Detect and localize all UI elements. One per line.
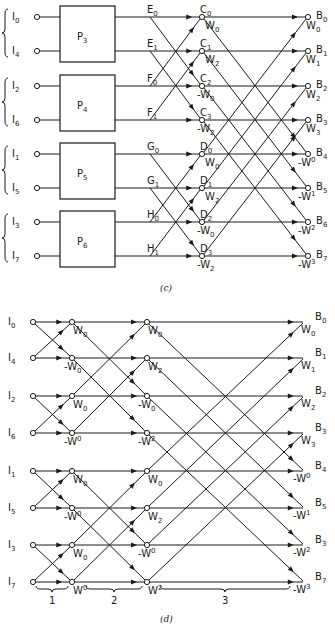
signal-edge bbox=[194, 19, 200, 27]
stage1-node bbox=[69, 579, 74, 584]
twiddle-weight: W0 bbox=[205, 20, 219, 34]
intermediate-label: G1 bbox=[147, 175, 159, 189]
input-label: I0 bbox=[8, 316, 15, 330]
figure-d-caption: (d) bbox=[160, 614, 173, 624]
input-node bbox=[30, 319, 35, 324]
intermediate-label: E0 bbox=[147, 4, 158, 18]
signal-edge bbox=[74, 324, 135, 384]
twiddle-weight: W3 bbox=[306, 123, 320, 137]
stage-node bbox=[199, 117, 204, 122]
output-label: B0 bbox=[316, 10, 327, 24]
stage2-node bbox=[144, 542, 149, 547]
output-label: B6 bbox=[316, 215, 328, 229]
signal-edge bbox=[296, 241, 306, 254]
twiddle-weight: -W0 bbox=[138, 547, 156, 559]
signal-edge bbox=[149, 398, 294, 535]
figure-c-caption: (c) bbox=[160, 283, 173, 293]
signal-edge bbox=[74, 334, 135, 394]
dft-block bbox=[60, 75, 115, 131]
input-label: I5 bbox=[8, 502, 15, 516]
stage2-node bbox=[144, 579, 149, 584]
twiddle-weight: W0 bbox=[148, 474, 162, 488]
intermediate-label: E1 bbox=[147, 38, 158, 52]
input-label: I1 bbox=[8, 465, 15, 479]
signal-edge bbox=[204, 135, 296, 254]
signal-edge bbox=[204, 122, 296, 241]
twiddle-weight: -W0 bbox=[64, 361, 82, 375]
signal-edge bbox=[35, 330, 64, 356]
signal-edge bbox=[204, 53, 296, 173]
signal-edge bbox=[296, 53, 306, 66]
signal-edge bbox=[74, 473, 135, 533]
stage-number: 3 bbox=[222, 595, 228, 606]
output-node bbox=[305, 48, 310, 53]
signal-edge bbox=[296, 173, 306, 186]
input-label: I3 bbox=[12, 216, 19, 230]
input-label: I3 bbox=[8, 539, 15, 553]
figure-d-butterfly-diagram: I0I4I2I6I1I5I3I7W0-W0W0-W0W0-W0W0W0W0W2-… bbox=[8, 311, 327, 606]
signal-edge bbox=[194, 190, 200, 198]
input-node bbox=[34, 83, 39, 88]
stage2-node bbox=[144, 430, 149, 435]
signal-edge bbox=[149, 435, 294, 572]
stage2-node bbox=[144, 505, 149, 510]
signal-edge bbox=[294, 535, 303, 544]
signal-edge bbox=[204, 101, 296, 220]
signal-edge bbox=[35, 479, 64, 506]
signal-edge bbox=[35, 404, 64, 431]
output-node bbox=[305, 117, 310, 122]
twiddle-weight: -W1 bbox=[293, 509, 311, 521]
signal-edge bbox=[135, 384, 145, 394]
output-label: B4 bbox=[315, 460, 327, 474]
input-label: I7 bbox=[12, 250, 19, 264]
signal-edge bbox=[35, 398, 64, 425]
intermediate-label: G0 bbox=[147, 141, 159, 155]
signal-edge bbox=[135, 510, 145, 520]
input-label: I7 bbox=[8, 576, 15, 590]
output-node bbox=[305, 151, 310, 156]
signal-edge bbox=[35, 473, 64, 500]
output-label: B0 bbox=[315, 311, 326, 325]
intermediate-label: H1 bbox=[147, 243, 159, 257]
intermediate-label: H0 bbox=[147, 209, 159, 223]
signal-edge bbox=[294, 572, 303, 581]
signal-edge bbox=[204, 88, 296, 207]
input-node bbox=[34, 117, 39, 122]
output-label: B4 bbox=[316, 147, 328, 161]
output-label: B5 bbox=[315, 497, 326, 511]
output-label: B2 bbox=[316, 79, 327, 93]
input-label: I4 bbox=[12, 45, 20, 59]
stage-brace bbox=[160, 586, 290, 592]
twiddle-weight: -W2 bbox=[298, 224, 316, 236]
signal-edge bbox=[150, 198, 194, 256]
signal-edge bbox=[64, 574, 70, 580]
intermediate-label: F0 bbox=[147, 73, 157, 87]
dft-block bbox=[60, 211, 115, 267]
stage1-node bbox=[69, 468, 74, 473]
stage-node bbox=[199, 83, 204, 88]
input-node bbox=[34, 185, 39, 190]
twiddle-weight: W3 bbox=[301, 435, 315, 449]
twiddle-weight: -W0 bbox=[298, 156, 316, 168]
signal-edge bbox=[135, 324, 145, 334]
output-label: B7 bbox=[316, 249, 327, 263]
signal-edge bbox=[135, 473, 145, 483]
twiddle-weight: -W0 bbox=[64, 435, 82, 447]
signal-edge bbox=[74, 520, 135, 580]
twiddle-weight: W0 bbox=[148, 325, 162, 339]
twiddle-weight: W0 bbox=[306, 20, 320, 34]
signal-edge bbox=[64, 473, 70, 479]
input-label: I0 bbox=[12, 11, 19, 25]
output-label: B1 bbox=[315, 347, 326, 361]
signal-edge bbox=[296, 207, 306, 220]
signal-edge bbox=[294, 461, 303, 470]
twiddle-weight: W2 bbox=[301, 398, 315, 412]
input-node bbox=[30, 393, 35, 398]
input-pair-brace bbox=[2, 9, 8, 57]
twiddle-weight: W1 bbox=[301, 360, 315, 374]
twiddle-weight: -W0 bbox=[197, 225, 215, 239]
stage1-node bbox=[69, 505, 74, 510]
signal-edge bbox=[149, 368, 294, 506]
signal-edge bbox=[149, 324, 294, 461]
signal-edge bbox=[149, 443, 294, 580]
